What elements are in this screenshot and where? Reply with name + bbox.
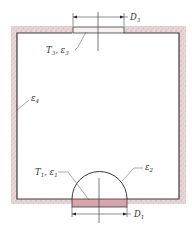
insulation-top-left (11, 26, 73, 33)
bottom-disk (72, 199, 127, 207)
t3-e3-label: T3, ε3 (46, 45, 69, 56)
t3-leader (75, 32, 86, 50)
insulation-right (179, 26, 186, 204)
e2-leader (122, 168, 143, 181)
d3-dimension (73, 13, 128, 26)
t1-e1-label: T1, ε1 (35, 167, 58, 178)
hemisphere (72, 172, 127, 200)
e2-label: ε2 (145, 162, 154, 173)
insulation-layer (11, 26, 186, 204)
enclosure-diagram: D3 T3, ε3 ε4 D1 T1, ε1 ε2 (0, 0, 192, 234)
d1-label: D1 (133, 209, 144, 220)
e4-leader (17, 100, 29, 110)
insulation-bottom-left (11, 199, 73, 204)
insulation-left (11, 26, 17, 204)
insulation-top-right (124, 26, 186, 33)
d1-dimension (72, 207, 131, 217)
insulation-bottom-right (127, 199, 186, 204)
d3-label: D3 (129, 12, 141, 23)
e4-label: ε4 (31, 93, 40, 104)
top-disk (73, 27, 124, 33)
